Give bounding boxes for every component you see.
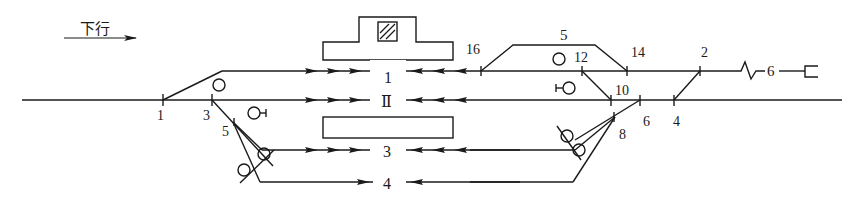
switch-2-label: 2 — [701, 45, 708, 60]
switch-3-label: 3 — [203, 108, 210, 123]
platform — [323, 117, 453, 138]
signal-icon — [248, 107, 266, 119]
signal-base — [240, 150, 274, 183]
direction-indicator: 下行 — [64, 21, 137, 41]
switch-labels-left: 1 3 5 — [157, 108, 229, 139]
buffer-stop-icon — [803, 66, 818, 77]
station-building — [323, 17, 453, 60]
crossover-12-10 — [582, 71, 611, 100]
switch-1-label: 1 — [157, 108, 164, 123]
switch-10-label: 10 — [615, 83, 629, 98]
station-track-diagram: 下行 6 5 — [0, 0, 857, 202]
track-5-label: 5 — [560, 27, 568, 43]
direction-label: 下行 — [80, 21, 110, 37]
switch-5-label: 5 — [222, 124, 229, 139]
track-4-label: 4 — [383, 175, 391, 192]
switch-8-label: 8 — [619, 127, 626, 142]
signal-base — [557, 126, 581, 160]
track-6-label: 6 — [767, 63, 775, 79]
signal-icon — [556, 82, 575, 94]
switch-16-label: 16 — [466, 42, 480, 57]
crossover-2-4 — [674, 71, 700, 100]
switch-4-label: 4 — [673, 114, 680, 129]
switch-12-label: 12 — [574, 50, 588, 65]
left-ladder — [212, 100, 520, 182]
switch-14-label: 14 — [631, 45, 645, 60]
switch-labels-right: 16 12 14 2 10 6 4 8 — [466, 42, 708, 142]
track-ii-label: Ⅱ — [381, 93, 392, 110]
track-6-siding: 6 — [700, 62, 818, 79]
switch-6-label: 6 — [643, 114, 650, 129]
track-3-label: 3 — [383, 143, 391, 160]
track-5: 5 — [481, 27, 627, 71]
track-1-label: 1 — [384, 69, 392, 86]
signal-icon — [553, 53, 565, 65]
signal-icon — [213, 79, 225, 91]
